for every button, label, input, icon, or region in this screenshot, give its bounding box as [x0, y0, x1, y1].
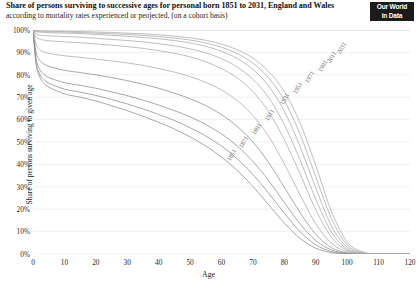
y-tick-20: 20%	[2, 205, 30, 214]
x-tick-20: 20	[81, 258, 111, 267]
x-axis-title: Age	[0, 270, 417, 279]
x-tick-60: 60	[207, 258, 237, 267]
x-tick-120: 120	[395, 258, 417, 267]
x-tick-40: 40	[144, 258, 174, 267]
our-world-in-data-logo[interactable]: Our World in Data	[370, 2, 414, 21]
y-tick-40: 40%	[2, 160, 30, 169]
plot-area	[33, 30, 410, 254]
x-tick-110: 110	[364, 258, 394, 267]
y-tick-90: 90%	[2, 48, 30, 57]
x-tick-100: 100	[332, 258, 362, 267]
x-tick-30: 30	[112, 258, 142, 267]
logo-line-2: in Data	[370, 12, 414, 21]
y-tick-30: 30%	[2, 183, 30, 192]
x-tick-10: 10	[49, 258, 79, 267]
chart-subtitle: according to mortality rates experienced…	[6, 11, 368, 21]
page-title: Share of persons surviving to successive…	[6, 1, 368, 11]
line-chart-svg	[33, 30, 410, 254]
chart-page: Share of persons surviving to successive…	[0, 0, 417, 286]
y-tick-60: 60%	[2, 115, 30, 124]
y-tick-10: 10%	[2, 227, 30, 236]
x-tick-70: 70	[238, 258, 268, 267]
gridlines	[33, 30, 410, 254]
x-tick-0: 0	[18, 258, 48, 267]
logo-line-1: Our World	[370, 3, 414, 12]
x-tick-90: 90	[301, 258, 331, 267]
y-tick-50: 50%	[2, 138, 30, 147]
y-tick-70: 70%	[2, 93, 30, 102]
x-tick-80: 80	[269, 258, 299, 267]
y-tick-80: 80%	[2, 71, 30, 80]
x-tick-50: 50	[175, 258, 205, 267]
y-tick-100: 100%	[2, 26, 30, 35]
chart-header: Share of persons surviving to successive…	[6, 1, 368, 21]
